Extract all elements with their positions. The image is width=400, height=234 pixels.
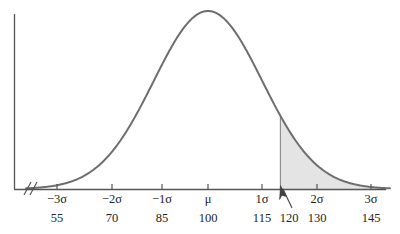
bell-curve	[26, 11, 390, 188]
normal-distribution-figure: −3σ55−2σ70−1σ85μ1001σ1152σ1303σ145120	[0, 0, 400, 234]
distribution-plot	[0, 0, 400, 234]
